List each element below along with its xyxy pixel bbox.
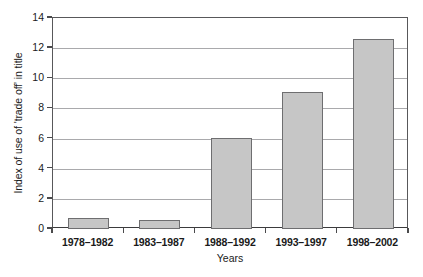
x-tick-label: 1983–1987 [123,236,194,248]
plot-area [52,17,408,228]
bar [211,138,252,229]
bar-chart-figure: Index of use of 'trade off' in title 024… [0,0,423,277]
y-tick-label-wrap: 4 [14,163,44,173]
x-tick-mark [51,228,52,233]
bar [353,39,394,229]
y-tick-label: 2 [20,193,44,203]
y-tick-label: 12 [20,42,44,52]
y-tick-label-wrap: 8 [14,102,44,112]
x-tick-mark [194,228,195,233]
y-tick-label-wrap: 14 [14,12,44,22]
y-tick-label-wrap: 12 [14,42,44,52]
y-tick-label-wrap: 6 [14,133,44,143]
bar [282,92,323,229]
y-tick-label-wrap: 0 [14,223,44,233]
x-tick-mark [265,228,266,233]
y-tick-label-wrap: 10 [14,72,44,82]
y-tick-label: 8 [20,102,44,112]
y-tick-label: 14 [20,12,44,22]
x-tick-mark [407,228,408,233]
y-tick-label: 4 [20,163,44,173]
bar [139,220,180,229]
page-bleed-text [18,264,408,274]
bar [68,218,109,229]
x-tick-label: 1993–1997 [266,236,337,248]
x-tick-label: 1998–2002 [337,236,408,248]
y-tick-label-wrap: 2 [14,193,44,203]
x-tick-mark [336,228,337,233]
x-axis-title: Years [52,252,408,264]
x-tick-label: 1978–1982 [52,236,123,248]
x-tick-label: 1988–1992 [194,236,265,248]
y-tick-label: 0 [20,223,44,233]
y-tick-label: 10 [20,72,44,82]
y-tick-label: 6 [20,133,44,143]
x-tick-mark [123,228,124,233]
